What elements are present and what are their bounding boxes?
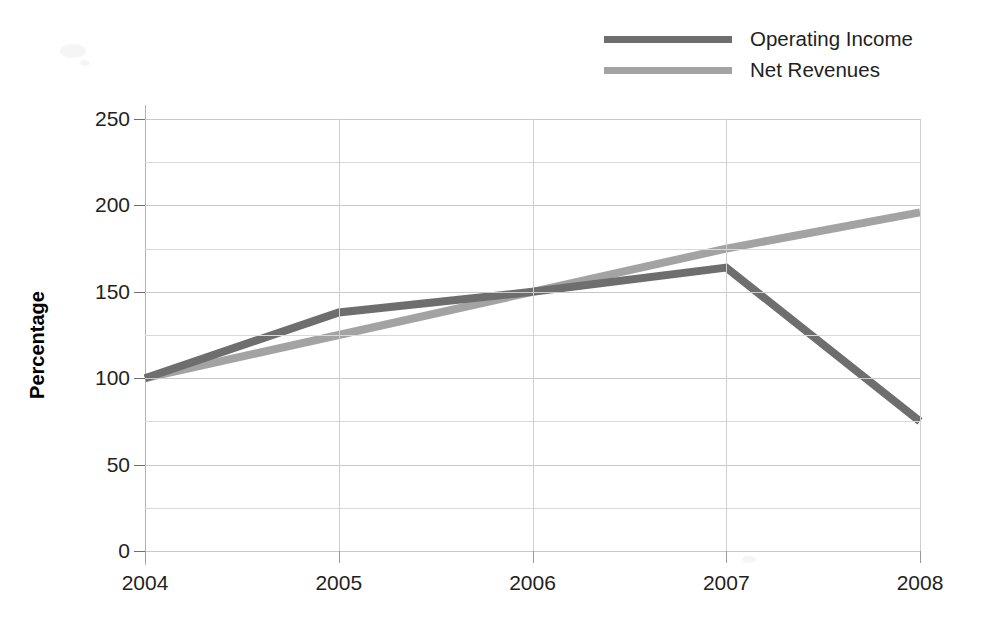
x-axis-tick (726, 551, 727, 563)
x-axis-tick-label: 2006 (509, 571, 556, 595)
y-axis-tick (134, 119, 145, 120)
y-axis-tick-label: 0 (118, 539, 130, 563)
y-axis-tick-label: 50 (107, 453, 130, 477)
legend-item-net-revenues: Net Revenues (604, 55, 974, 86)
gridline-vertical (920, 119, 921, 551)
legend-swatch-operating-income (604, 36, 732, 43)
y-axis-title-text: Percentage (26, 291, 49, 399)
gridline-vertical (339, 119, 340, 551)
gridline-vertical (533, 119, 534, 551)
y-axis-tick (134, 205, 145, 206)
x-axis-tick (920, 551, 921, 563)
legend-label-operating-income: Operating Income (750, 29, 913, 50)
plot-area: 05010015020025020042005200620072008 (145, 119, 920, 551)
y-axis-tick-label: 250 (95, 107, 130, 131)
y-axis-tick-label: 100 (95, 366, 130, 390)
x-axis-tick-label: 2004 (122, 571, 169, 595)
x-axis-tick (145, 551, 146, 563)
x-axis-tick-label: 2007 (703, 571, 750, 595)
scan-speckle (80, 60, 90, 66)
scan-speckle (742, 556, 756, 563)
x-axis-tick-label: 2008 (897, 571, 944, 595)
y-axis-tick-label: 150 (95, 280, 130, 304)
legend-label-net-revenues: Net Revenues (750, 60, 880, 81)
y-axis-title: Percentage (22, 0, 52, 632)
x-axis-tick-label: 2005 (315, 571, 362, 595)
chart-figure: Operating Income Net Revenues Percentage… (0, 0, 987, 632)
scan-speckle (60, 44, 86, 58)
y-axis-tick (134, 378, 145, 379)
y-axis-tick-label: 200 (95, 193, 130, 217)
x-axis-tick (339, 551, 340, 563)
legend-swatch-net-revenues (604, 67, 732, 74)
y-axis-tick (134, 292, 145, 293)
x-axis-tick (533, 551, 534, 563)
y-axis-tick (134, 551, 145, 552)
y-axis-tick (134, 465, 145, 466)
chart-legend: Operating Income Net Revenues (604, 24, 974, 86)
legend-item-operating-income: Operating Income (604, 24, 974, 55)
gridline-vertical (726, 119, 727, 551)
